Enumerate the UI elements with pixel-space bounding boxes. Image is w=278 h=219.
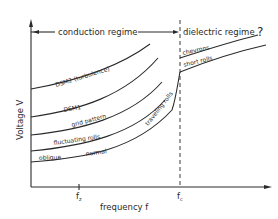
arrow-right-icon	[173, 30, 179, 34]
chevrons-label: chevrons	[182, 43, 210, 56]
dielectric-regime-label: dielectric regime	[183, 27, 255, 37]
dsm2-curve	[31, 44, 150, 89]
arrow-left-icon	[33, 30, 39, 34]
conduction-regime-label: conduction regime	[58, 27, 138, 37]
dsm1-label: DSM1	[63, 103, 82, 113]
x-axis-label: frequency f	[100, 202, 149, 212]
grid-pattern-curve	[31, 82, 162, 135]
phase-diagram: conduction regime dielectric regime ? Vo…	[0, 0, 278, 219]
fc-label: fc	[177, 191, 183, 202]
y-axis-arrow-icon	[29, 19, 33, 27]
normal-label: normal	[85, 147, 107, 157]
fz-label: fz	[76, 191, 82, 202]
x-axis-arrow-icon	[264, 185, 272, 189]
fluctuating-rolls-curve	[31, 100, 165, 151]
y-axis-label: Voltage V	[15, 99, 25, 140]
dsm2-label: DSM2 (turbulence)	[54, 65, 110, 88]
dsm1-curve	[31, 58, 158, 117]
question-mark: ?	[257, 25, 263, 39]
